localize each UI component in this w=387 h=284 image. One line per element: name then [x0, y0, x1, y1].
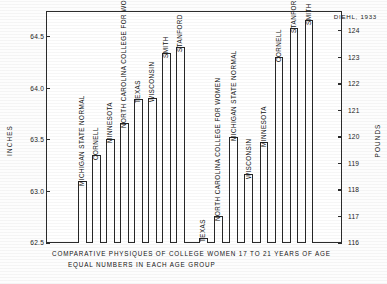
bar — [162, 53, 171, 243]
bar-label: SMITH — [162, 36, 169, 58]
bar — [260, 142, 269, 243]
bar-label: NORTH CAROLINA COLLEGE FOR WOMEN — [120, 0, 127, 128]
axis-tick-mark — [338, 30, 342, 31]
bar-label: MINNESOTA — [260, 106, 267, 147]
bar-label: CORNELL — [92, 127, 99, 160]
axis-tick-mark — [338, 83, 342, 84]
axis-tick-label: 116 — [348, 239, 374, 246]
bar-label: TEXAS — [134, 80, 141, 103]
axis-tick-label: 118 — [348, 186, 374, 193]
axis-tick-label: 119 — [348, 160, 374, 167]
bar — [275, 57, 284, 243]
axis-tick-label: 121 — [348, 107, 374, 114]
bar — [148, 98, 157, 243]
bar-label: TEXAS — [199, 219, 206, 242]
bar — [229, 137, 238, 243]
axis-tick-mark — [46, 191, 50, 192]
axis-tick-label: 62.5 — [18, 239, 44, 246]
axis-tick-mark — [338, 110, 342, 111]
bar — [244, 174, 253, 243]
bar — [106, 139, 115, 243]
axis-tick-mark — [338, 216, 342, 217]
bar-label: MICHIGAN STATE NORMAL — [78, 95, 85, 186]
axis-tick-mark — [338, 163, 342, 164]
bar — [120, 123, 129, 243]
bar — [176, 47, 185, 243]
right-axis-title: POUNDS — [374, 121, 381, 161]
axis-tick-mark — [46, 242, 50, 243]
left-axis-title: INCHES — [6, 121, 13, 161]
bar-label: SMITH — [305, 3, 312, 25]
figure-caption: COMPARATIVE PHYSIQUES OF COLLEGE WOMEN 1… — [52, 248, 352, 270]
axis-tick-label: 122 — [348, 80, 374, 87]
bar-label: STANFORD — [176, 14, 183, 52]
axis-tick-mark — [338, 57, 342, 58]
axis-tick-label: 63.5 — [18, 136, 44, 143]
axis-tick-label: 123 — [348, 54, 374, 61]
axis-tick-mark — [46, 88, 50, 89]
bar-label: NORTH CAROLINA COLLEGE FOR WOMEN — [214, 78, 221, 221]
bar-label: WISCONSIN — [245, 138, 252, 178]
axis-tick-label: 124 — [348, 27, 374, 34]
axis-tick-label: 64.0 — [18, 85, 44, 92]
axis-tick-label: 63.0 — [18, 188, 44, 195]
bar — [134, 99, 143, 243]
bar-label: CORNELL — [275, 29, 282, 62]
axis-tick-mark — [338, 189, 342, 190]
axis-tick-label: 64.5 — [18, 33, 44, 40]
bar-label: STANFORD — [290, 0, 297, 33]
axis-tick-label: 117 — [348, 213, 374, 220]
bar — [290, 28, 299, 243]
axis-tick-mark — [46, 36, 50, 37]
bar-label: WISCONSIN — [148, 62, 155, 102]
axis-tick-mark — [46, 139, 50, 140]
axis-tick-label: 120 — [348, 133, 374, 140]
axis-tick-mark — [338, 242, 342, 243]
caption-line-2: EQUAL NUMBERS IN EACH AGE GROUP — [52, 259, 352, 270]
caption-line-1: COMPARATIVE PHYSIQUES OF COLLEGE WOMEN 1… — [52, 250, 331, 257]
bar-label: MICHIGAN STATE NORMAL — [230, 51, 237, 142]
bar — [92, 155, 101, 243]
bar — [78, 181, 87, 243]
source-attribution: DIEHL, 1933 — [334, 13, 377, 20]
axis-tick-mark — [338, 136, 342, 137]
bar — [305, 20, 314, 243]
figure-canvas: INCHES POUNDS 62.563.063.564.064.5 11611… — [0, 0, 387, 284]
bar-label: MINNESOTA — [106, 102, 113, 143]
